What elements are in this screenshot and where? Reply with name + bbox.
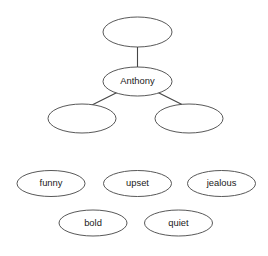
connector-anthony-to-left [92, 92, 118, 105]
child-right-node[interactable] [155, 104, 223, 133]
child-left-node-ellipse[interactable] [48, 104, 116, 133]
word-jealous-label: jealous [206, 177, 237, 188]
word-quiet[interactable]: quiet [145, 210, 213, 236]
diagram-canvas: Anthony funny upset jealous [0, 0, 268, 256]
tree-group: Anthony [48, 17, 223, 133]
word-funny[interactable]: funny [17, 171, 85, 197]
root-node[interactable] [103, 17, 172, 47]
word-upset-label: upset [126, 177, 149, 188]
word-quiet-label: quiet [168, 217, 189, 228]
word-bold-label: bold [84, 217, 102, 228]
word-upset[interactable]: upset [104, 171, 172, 197]
anthony-node-label: Anthony [120, 75, 155, 86]
word-jealous[interactable]: jealous [188, 171, 256, 197]
child-right-node-ellipse[interactable] [155, 104, 223, 133]
child-left-node[interactable] [48, 104, 116, 133]
anthony-node[interactable]: Anthony [103, 67, 172, 96]
word-funny-label: funny [40, 177, 63, 188]
word-bold[interactable]: bold [59, 210, 127, 236]
connector-anthony-to-right [157, 92, 183, 105]
root-node-ellipse[interactable] [103, 17, 172, 47]
word-bank-group: funny upset jealous bold quiet [17, 171, 256, 237]
concept-map-diagram: Anthony funny upset jealous [0, 0, 268, 256]
